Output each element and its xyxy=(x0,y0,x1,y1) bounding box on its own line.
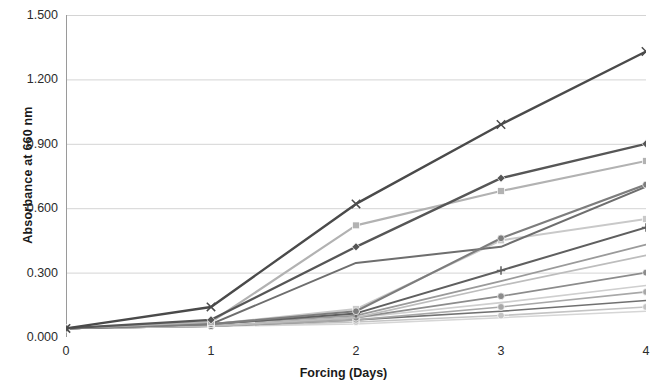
plot-svg xyxy=(66,15,646,337)
gridlines xyxy=(66,16,646,338)
data-point-marker xyxy=(352,243,360,251)
data-point-marker xyxy=(643,269,646,276)
data-point-marker xyxy=(498,293,505,300)
data-point-marker xyxy=(498,312,505,319)
data-point-marker xyxy=(352,200,360,208)
x-tick-label: 0 xyxy=(63,344,70,358)
data-point-marker xyxy=(498,188,505,195)
y-tick-label: 0.900 xyxy=(4,137,58,151)
data-point-marker xyxy=(643,289,646,296)
y-tick-label: 0.000 xyxy=(4,330,58,344)
x-axis-tick-labels: 01234 xyxy=(0,344,651,364)
x-tick-label: 3 xyxy=(498,344,505,358)
y-tick-label: 1.200 xyxy=(4,72,58,86)
data-point-marker xyxy=(643,216,646,223)
series-1 xyxy=(66,47,646,332)
data-point-marker xyxy=(642,223,646,231)
x-axis-title: Forcing (Days) xyxy=(0,366,651,380)
x-tick-label: 2 xyxy=(353,344,360,358)
y-axis-tick-labels: 1.5001.2000.9000.6000.3000.000 xyxy=(0,0,58,388)
y-tick-label: 1.500 xyxy=(4,8,58,22)
data-point-marker xyxy=(498,304,505,311)
data-point-marker xyxy=(497,174,505,182)
data-point-marker xyxy=(353,308,360,315)
series-2 xyxy=(66,140,646,333)
x-tick-label: 4 xyxy=(643,344,650,358)
data-point-marker xyxy=(643,181,646,188)
y-tick-label: 0.300 xyxy=(4,266,58,280)
axis-lines xyxy=(66,15,646,337)
data-point-marker xyxy=(497,120,505,128)
plot-area xyxy=(66,15,646,337)
y-tick-label: 0.600 xyxy=(4,201,58,215)
data-point-marker xyxy=(498,235,505,242)
data-point-marker xyxy=(353,222,360,229)
data-point-marker xyxy=(643,158,646,165)
x-tick-label: 1 xyxy=(208,344,215,358)
data-point-marker xyxy=(643,304,646,311)
data-point-marker xyxy=(642,140,646,148)
line-chart: Absorbance at 660 nm 1.5001.2000.9000.60… xyxy=(0,0,651,388)
